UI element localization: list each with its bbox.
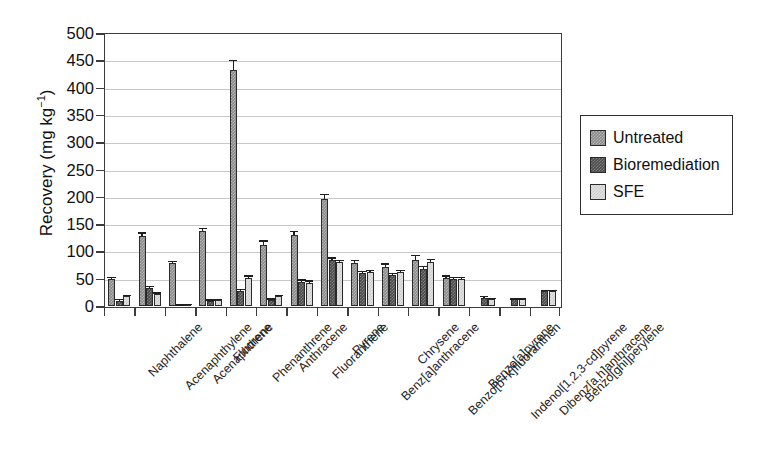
error-bar	[233, 60, 234, 70]
error-bar-cap	[214, 299, 222, 300]
bar	[306, 283, 313, 306]
legend-item-untreated: Untreated	[590, 124, 720, 151]
bar	[541, 291, 548, 306]
error-bar-cap	[548, 290, 556, 291]
error-bar-cap	[419, 266, 427, 267]
x-tick-mark	[286, 307, 287, 316]
x-tick-mark	[499, 307, 500, 316]
x-category-label: Dibenz[a,h]anthracene	[557, 320, 655, 418]
error-bar-cap	[267, 298, 275, 299]
bar-chart-figure: Recovery (mg kg−1) 050100150200250300350…	[0, 0, 775, 464]
x-category-label: Naphthalene	[146, 320, 206, 380]
error-bar-cap	[427, 259, 435, 260]
x-category-label: Benz[a]anthracene	[399, 320, 482, 403]
error-bar-cap	[123, 295, 131, 296]
bar-series-container	[104, 33, 560, 306]
error-bar-cap	[183, 304, 191, 305]
chart-legend: Untreated Bioremediation SFE	[580, 115, 733, 215]
bar	[329, 260, 336, 306]
bar	[450, 279, 457, 306]
x-category-label: Acenaphthene	[209, 320, 275, 386]
error-bar-cap	[259, 240, 267, 241]
y-tick-label: 0	[36, 298, 94, 314]
y-tick-label: 300	[36, 134, 94, 150]
x-category-label: Chrysene	[414, 320, 461, 367]
error-bar-cap	[335, 260, 343, 261]
legend-swatch-sfe-icon	[590, 184, 606, 200]
bar	[123, 296, 130, 306]
bar	[146, 288, 153, 306]
x-tick-mark	[378, 307, 379, 316]
y-tick-label: 450	[36, 52, 94, 68]
x-tick-mark	[530, 307, 531, 316]
legend-label-bioremediation: Bioremediation	[613, 156, 720, 174]
error-bar-cap	[389, 273, 397, 274]
x-tick-mark	[134, 307, 135, 316]
error-bar-cap	[145, 286, 153, 287]
error-bar-cap	[290, 231, 298, 232]
error-bar-cap	[487, 298, 495, 299]
bar	[298, 282, 305, 306]
y-tick-label: 400	[36, 80, 94, 96]
y-tick-label: 150	[36, 216, 94, 232]
x-tick-mark	[256, 307, 257, 316]
x-tick-mark	[559, 307, 560, 316]
x-tick-mark	[165, 307, 166, 316]
x-category-label: Fluoranthene	[329, 320, 391, 382]
bar	[169, 263, 176, 306]
error-bar-cap	[199, 228, 207, 229]
y-tick-label: 250	[36, 162, 94, 178]
error-bar-cap	[411, 255, 419, 256]
legend-item-bioremediation: Bioremediation	[590, 151, 720, 178]
x-category-label: Benzo[ghi]perylene	[582, 320, 667, 405]
legend-item-sfe: SFE	[590, 178, 720, 205]
bar	[230, 70, 237, 306]
bar	[367, 272, 374, 306]
x-category-label: Acenaphthylene	[182, 320, 255, 393]
y-tick-label: 200	[36, 189, 94, 205]
legend-label-untreated: Untreated	[613, 129, 683, 147]
bar	[321, 199, 328, 306]
bar	[139, 236, 146, 306]
bar	[397, 272, 404, 306]
bar	[108, 279, 115, 306]
y-axis-tick-labels: 050100150200250300350400450500	[36, 14, 94, 307]
bar	[420, 269, 427, 306]
x-tick-mark	[104, 307, 105, 316]
bar	[154, 294, 161, 306]
error-bar-cap	[107, 277, 115, 278]
error-bar-cap	[328, 257, 336, 258]
x-tick-mark	[438, 307, 439, 316]
error-bar-cap	[381, 263, 389, 264]
bar	[336, 262, 343, 306]
x-tick-mark	[347, 307, 348, 316]
legend-swatch-bioremediation-icon	[590, 157, 606, 173]
x-category-label: Indenol[1,2,3-cd]pyrene	[528, 320, 630, 422]
bar	[488, 299, 495, 306]
error-bar-cap	[115, 299, 123, 300]
bar	[389, 275, 396, 306]
y-tick-label: 100	[36, 243, 94, 259]
y-tick-label: 350	[36, 107, 94, 123]
bar	[427, 262, 434, 306]
legend-label-sfe: SFE	[613, 183, 644, 201]
legend-swatch-untreated-icon	[590, 130, 606, 146]
x-category-label: Pyrene	[350, 320, 388, 358]
error-bar-cap	[244, 275, 252, 276]
bar	[443, 278, 450, 306]
error-bar-cap	[457, 277, 465, 278]
x-tick-mark	[195, 307, 196, 316]
bar	[237, 291, 244, 306]
error-bar-cap	[366, 270, 374, 271]
y-tick-label: 50	[36, 271, 94, 287]
bar	[511, 299, 518, 306]
error-bar-cap	[237, 289, 245, 290]
x-category-label: Phenanthrene	[270, 320, 335, 385]
bar	[291, 235, 298, 306]
error-bar-cap	[518, 298, 526, 299]
bar	[199, 231, 206, 306]
y-tick-label: 500	[36, 25, 94, 41]
bar	[351, 263, 358, 306]
bar	[359, 273, 366, 306]
x-axis-tick-marks	[104, 307, 560, 316]
